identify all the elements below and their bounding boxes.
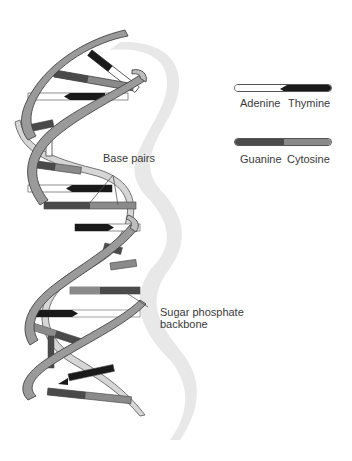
legend-bar-guanine-cytosine	[234, 138, 332, 146]
base-pair-gc-7	[70, 287, 140, 294]
legend-bar-adenine-thymine	[234, 84, 332, 92]
legend-cytosine: Cytosine	[287, 153, 330, 165]
legend-thymine: Thymine	[288, 97, 330, 109]
label-base-pairs: Base pairs	[103, 152, 155, 164]
base-pairs	[28, 50, 140, 404]
label-backbone-line1: Sugar phosphate	[160, 306, 244, 318]
legend-guanine: Guanine	[240, 153, 282, 165]
label-backbone-line2: backbone	[160, 318, 208, 330]
legend-adenine: Adenine	[240, 97, 280, 109]
dna-helix-illustration	[0, 0, 352, 461]
dna-diagram: Base pairs Sugar phosphate backbone Aden…	[0, 0, 352, 461]
base-pair-gc-6	[110, 259, 137, 270]
